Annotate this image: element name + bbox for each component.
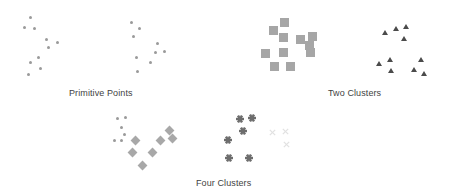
mark-triangle-two-clusters-6: [388, 68, 394, 73]
mark-circle-four-clusters-4: [113, 139, 116, 142]
mark-circle-primitive-points-3: [156, 42, 159, 45]
mark-circle-primitive-points-0: [29, 16, 32, 19]
mark-triangle-two-clusters-9: [421, 71, 427, 76]
mark-star-four-clusters-3: [224, 136, 232, 144]
mark-star-four-clusters-2: [239, 127, 247, 135]
mark-square-two-clusters-9: [270, 62, 279, 71]
mark-triangle-two-clusters-7: [418, 57, 424, 62]
mark-square-two-clusters-7: [279, 48, 288, 57]
mark-triangle-two-clusters-5: [387, 57, 393, 62]
mark-circle-primitive-points-7: [149, 61, 152, 64]
mark-diamond-four-clusters-5: [147, 147, 157, 157]
mark-diamond-four-clusters-2: [155, 135, 165, 145]
mark-diamond-four-clusters-6: [137, 160, 147, 170]
mark-circle-primitive-points-3: [45, 38, 48, 41]
mark-circle-four-clusters-0: [116, 117, 119, 120]
mark-circle-primitive-points-6: [37, 56, 40, 59]
mark-square-two-clusters-4: [308, 32, 317, 41]
scatter-figure: Primitive Points Two Clusters Four Clust…: [0, 0, 450, 195]
mark-triangle-two-clusters-0: [393, 26, 399, 31]
mark-diamond-four-clusters-1: [130, 135, 140, 145]
mark-circle-primitive-points-8: [39, 67, 42, 70]
mark-circle-primitive-points-4: [154, 51, 157, 54]
mark-square-two-clusters-2: [279, 33, 288, 42]
mark-x-four-clusters-1: [282, 128, 289, 135]
mark-circle-primitive-points-7: [29, 61, 32, 64]
mark-circle-primitive-points-2: [33, 27, 36, 30]
mark-circle-primitive-points-1: [138, 27, 141, 30]
mark-circle-primitive-points-4: [56, 41, 59, 44]
mark-triangle-two-clusters-8: [411, 67, 417, 72]
mark-circle-primitive-points-2: [132, 35, 135, 38]
mark-square-two-clusters-6: [261, 49, 270, 58]
mark-triangle-two-clusters-4: [376, 61, 382, 66]
mark-triangle-two-clusters-2: [401, 36, 407, 41]
mark-circle-four-clusters-5: [120, 139, 123, 142]
mark-circle-primitive-points-9: [27, 73, 30, 76]
mark-circle-four-clusters-2: [120, 126, 123, 129]
mark-square-two-clusters-10: [286, 62, 295, 71]
mark-circle-four-clusters-3: [123, 133, 126, 136]
mark-star-four-clusters-1: [248, 114, 256, 122]
mark-diamond-four-clusters-4: [127, 147, 137, 157]
mark-circle-primitive-points-6: [135, 56, 138, 59]
mark-x-four-clusters-2: [283, 141, 290, 148]
mark-circle-primitive-points-5: [163, 50, 166, 53]
mark-star-four-clusters-5: [245, 154, 253, 162]
mark-star-four-clusters-0: [236, 115, 244, 123]
mark-circle-four-clusters-1: [124, 116, 127, 119]
mark-circle-primitive-points-0: [130, 21, 133, 24]
mark-circle-primitive-points-8: [136, 70, 139, 73]
mark-circle-primitive-points-5: [47, 46, 50, 49]
mark-circle-primitive-points-1: [23, 26, 26, 29]
mark-x-four-clusters-0: [269, 129, 276, 136]
mark-square-two-clusters-3: [296, 35, 305, 44]
mark-star-four-clusters-4: [225, 154, 233, 162]
marks-layer: [0, 0, 450, 195]
mark-square-two-clusters-0: [280, 18, 289, 27]
mark-square-two-clusters-8: [306, 48, 315, 57]
mark-triangle-two-clusters-1: [403, 24, 409, 29]
mark-square-two-clusters-1: [269, 26, 278, 35]
mark-triangle-two-clusters-3: [382, 30, 388, 35]
